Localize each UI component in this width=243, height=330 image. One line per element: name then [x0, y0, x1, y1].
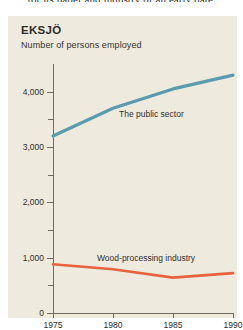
series-label-wood-industry: Wood-processing industry — [97, 253, 195, 263]
chart-subtitle: Number of persons employed — [21, 40, 142, 50]
x-tick-label: 1990 — [224, 320, 243, 330]
y-tick-label: 4,000 — [23, 87, 44, 97]
y-tick-label: 2,000 — [23, 197, 44, 207]
page-caption-text: for its paper and industry of an early d… — [0, 0, 243, 2]
chart-panel: EKSJÖ Number of persons employed 01,0002… — [8, 16, 237, 318]
y-tick-label: 1,000 — [23, 253, 44, 263]
y-tick-label: 3,000 — [23, 142, 44, 152]
x-tick-label: 1985 — [164, 320, 183, 330]
chart-series-svg — [53, 64, 237, 318]
plot-area: 01,0002,0003,0004,000 1975198019851990 T… — [53, 64, 237, 318]
y-tick-label: 0 — [39, 308, 44, 318]
x-tick-label: 1975 — [44, 320, 63, 330]
series-label-public-sector: The public sector — [119, 109, 184, 119]
page-title: EKSJÖ — [21, 24, 62, 36]
series-line-public-sector — [53, 75, 233, 136]
x-tick-label: 1980 — [104, 320, 123, 330]
series-line-wood-industry — [53, 264, 233, 277]
